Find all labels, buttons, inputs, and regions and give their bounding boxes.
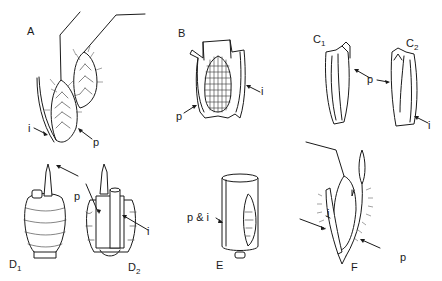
panel-e-drawing <box>216 174 258 258</box>
callout-c2-i: i <box>428 120 430 131</box>
panel-label-e: E <box>216 260 223 271</box>
panel-label-a: A <box>27 26 34 37</box>
panel-label-c1: C1 <box>313 34 325 49</box>
panel-label-f: F <box>351 262 358 273</box>
callout-e-p-and-i: p & i <box>187 212 209 223</box>
panel-label-d1-sub: 1 <box>17 264 21 273</box>
panel-label-c2: C2 <box>406 38 418 53</box>
callout-d2-i: i <box>147 226 149 237</box>
panel-label-c2-letter: C <box>406 37 414 49</box>
panel-label-b: B <box>178 28 185 39</box>
panel-label-d1: D1 <box>9 259 21 274</box>
callout-c-p: p <box>367 74 373 85</box>
callout-f-p: p <box>400 252 406 263</box>
panel-label-d2-sub: 2 <box>136 267 140 276</box>
panel-label-c1-letter: C <box>313 33 321 45</box>
panel-label-d1-letter: D <box>9 258 17 270</box>
panel-label-d2-letter: D <box>128 261 136 273</box>
panel-label-c1-sub: 1 <box>321 39 325 48</box>
panel-label-c2-sub: 2 <box>414 43 418 52</box>
callout-a-p: p <box>93 137 99 148</box>
callout-b-p: p <box>176 111 182 122</box>
panel-b-drawing <box>184 40 260 118</box>
callout-b-i: i <box>261 86 263 97</box>
callout-f-i: i <box>327 208 329 219</box>
callout-a-i: i <box>28 123 30 134</box>
panel-d-drawing <box>24 164 148 258</box>
panel-label-d2: D2 <box>128 262 140 277</box>
botanical-figure <box>0 0 442 281</box>
callout-d-p: p <box>74 191 80 202</box>
panel-a-drawing <box>34 12 145 142</box>
panel-f-drawing <box>300 142 380 264</box>
panel-c-drawing <box>325 42 428 126</box>
